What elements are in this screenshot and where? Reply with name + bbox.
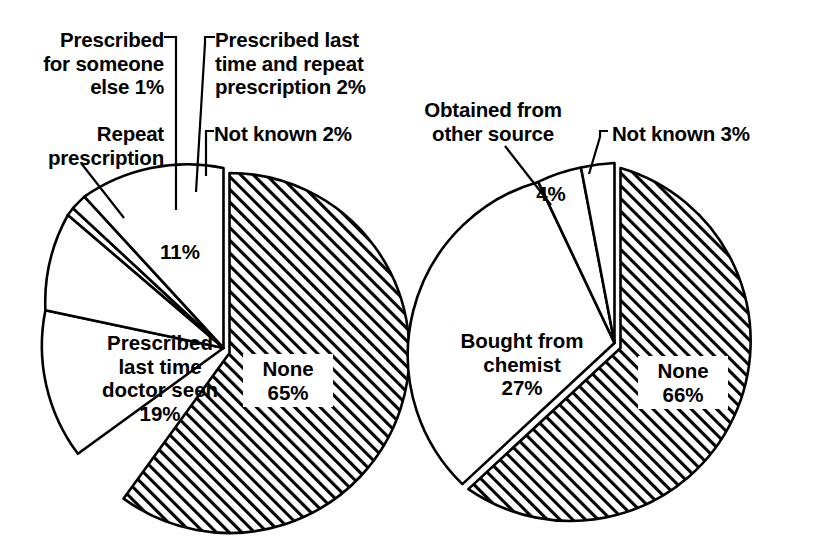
left-label-not-known: Not known 2%	[214, 122, 414, 146]
left-value-none: None 65%	[245, 356, 331, 405]
pie-chart-figure: Prescribed for someone else 1% Repeat pr…	[0, 0, 819, 546]
left-value-repeat-prescription: 11%	[148, 240, 212, 264]
right-value-none: None 66%	[640, 358, 726, 407]
right-label-obtained-from-other-source: Obtained from other source	[418, 98, 568, 145]
left-pie	[42, 37, 410, 533]
left-value-prescribed-last-time-doctor-seen: Prescribed last time doctor seen 19%	[72, 331, 248, 425]
left-label-repeat-prescription: Repeat prescription	[14, 122, 164, 169]
right-value-obtained-from-other-source: 4%	[528, 182, 574, 206]
left-label-prescribed-last-time-and-repeat: Prescribed last time and repeat prescrip…	[215, 28, 410, 99]
left-label-prescribed-for-someone-else: Prescribed for someone else 1%	[14, 28, 164, 99]
right-pie	[408, 131, 751, 521]
right-value-bought-from-chemist: Bought from chemist 27%	[440, 329, 604, 400]
right-label-not-known: Not known 3%	[612, 122, 812, 146]
